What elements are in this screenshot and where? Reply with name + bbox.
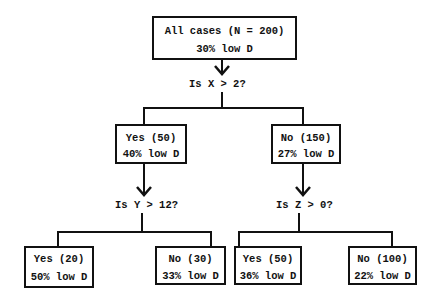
connector-right-bar (238, 231, 393, 233)
split-question-x: Is X > 2? (187, 78, 248, 90)
node-label: No (100) (350, 253, 415, 265)
connector-left-yes-drop (57, 231, 59, 247)
node-no-100: No (100) 22% low D (348, 246, 417, 285)
connector-right-no-drop (391, 231, 393, 247)
node-label: No (30) (157, 253, 224, 265)
connector-split1-bar (143, 107, 304, 109)
node-label: Yes (50) (236, 253, 300, 265)
arrow-down-icon (136, 185, 152, 197)
connector-left-stem2 (141, 213, 143, 233)
node-rate: 22% low D (350, 270, 415, 282)
node-no-30: No (30) 33% low D (155, 246, 226, 285)
split-question-y: Is Y > 12? (113, 199, 180, 211)
arrow-down-icon (214, 64, 230, 76)
node-rate: 36% low D (236, 270, 300, 282)
node-label: Yes (20) (26, 253, 92, 265)
node-yes-20: Yes (20) 50% low D (24, 246, 94, 288)
root-node-label: All cases (N = 200) (154, 25, 295, 37)
connector-left-bar (57, 231, 212, 233)
connector-left-no-drop (210, 231, 212, 247)
node-yes-50: Yes (50) 40% low D (115, 124, 187, 164)
node-label: No (150) (273, 132, 339, 144)
split-question-z: Is Z > 0? (274, 199, 335, 211)
connector-split1-right-drop (302, 107, 304, 125)
node-no-150: No (150) 27% low D (271, 124, 341, 164)
connector-right-stem2 (298, 213, 300, 233)
node-label: Yes (50) (117, 132, 185, 144)
node-yes-50-z: Yes (50) 36% low D (234, 246, 302, 285)
node-rate: 40% low D (117, 148, 185, 160)
node-rate: 50% low D (26, 271, 92, 283)
root-node: All cases (N = 200) 30% low D (152, 16, 297, 60)
node-rate: 33% low D (157, 270, 224, 282)
connector-right-yes-drop (238, 231, 240, 247)
node-rate: 27% low D (273, 148, 339, 160)
arrow-down-icon (295, 185, 311, 197)
connector-split1-left-drop (143, 107, 145, 125)
root-node-rate: 30% low D (154, 43, 295, 55)
